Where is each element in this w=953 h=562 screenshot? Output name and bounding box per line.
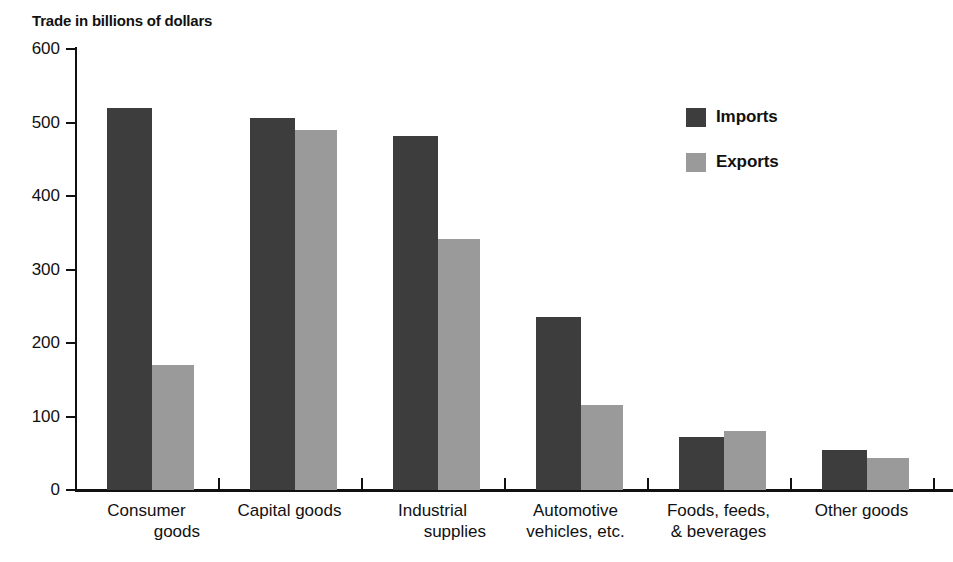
bar-imports-2[interactable]	[393, 136, 438, 490]
y-axis-label: 300	[8, 261, 60, 278]
x-axis-tick	[75, 478, 77, 490]
legend-swatch-exports	[686, 153, 706, 172]
category-label-line2: & beverages	[647, 521, 790, 542]
bar-imports-4[interactable]	[679, 437, 724, 490]
bar-exports-3[interactable]	[581, 405, 623, 490]
category-label-4: Foods, feeds,& beverages	[647, 500, 790, 542]
category-label-1: Capital goods	[218, 500, 361, 521]
category-label-line1: Industrial	[361, 500, 504, 521]
bar-exports-5[interactable]	[867, 458, 909, 490]
category-label-line1: Automotive	[504, 500, 647, 521]
category-label-line2: vehicles, etc.	[504, 521, 647, 542]
bar-imports-1[interactable]	[250, 118, 295, 490]
y-axis-tick	[66, 122, 75, 124]
x-axis-tick	[933, 478, 935, 490]
legend-swatch-imports	[686, 108, 706, 127]
y-axis-tick	[66, 195, 75, 197]
x-axis-tick	[647, 478, 649, 490]
category-label-line1: Foods, feeds,	[647, 500, 790, 521]
category-label-line2: goods	[75, 521, 218, 542]
y-axis-label: 500	[8, 114, 60, 131]
chart-title: Trade in billions of dollars	[32, 12, 212, 29]
x-axis-tick	[361, 478, 363, 490]
category-label-3: Automotivevehicles, etc.	[504, 500, 647, 542]
y-axis-tick	[66, 416, 75, 418]
bar-exports-1[interactable]	[295, 130, 337, 490]
y-axis-label: 400	[8, 187, 60, 204]
category-label-line1: Other goods	[790, 500, 933, 521]
y-axis-tick	[66, 489, 75, 491]
category-label-line2: supplies	[361, 521, 504, 542]
legend-label-imports: Imports	[716, 107, 778, 127]
bar-imports-5[interactable]	[822, 450, 867, 490]
x-axis-tick	[504, 478, 506, 490]
x-axis-tick	[218, 478, 220, 490]
y-axis-tick	[66, 269, 75, 271]
legend-item-imports[interactable]: Imports	[686, 106, 779, 128]
category-label-line1: Consumer	[75, 500, 218, 521]
y-axis-label: 600	[8, 40, 60, 57]
bar-chart: Trade in billions of dollars 01002003004…	[0, 0, 953, 562]
legend-label-exports: Exports	[716, 152, 779, 172]
category-label-line1: Capital goods	[218, 500, 361, 521]
y-axis-label: 0	[8, 481, 60, 498]
bar-imports-3[interactable]	[536, 317, 581, 490]
bar-exports-4[interactable]	[724, 431, 766, 490]
y-axis-tick	[66, 342, 75, 344]
y-axis-label: 100	[8, 408, 60, 425]
legend-item-exports[interactable]: Exports	[686, 151, 779, 173]
category-label-2: Industrialsupplies	[361, 500, 504, 542]
category-label-0: Consumergoods	[75, 500, 218, 542]
bar-exports-2[interactable]	[438, 239, 480, 490]
y-axis-tick	[66, 48, 75, 50]
y-axis-label: 200	[8, 334, 60, 351]
y-axis-line	[75, 47, 77, 492]
category-label-5: Other goods	[790, 500, 933, 521]
legend: Imports Exports	[686, 106, 779, 196]
x-axis-tick	[790, 478, 792, 490]
bar-exports-0[interactable]	[152, 365, 194, 490]
bar-imports-0[interactable]	[107, 108, 152, 490]
